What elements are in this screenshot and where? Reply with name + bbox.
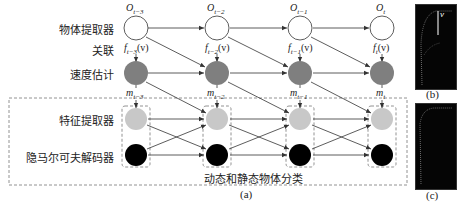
f-label-3: ft−1(v): [288, 42, 313, 56]
label-object-extractor: 物体提取器: [59, 21, 114, 37]
m-label-2: mt−2: [207, 87, 224, 101]
velocity-v-label: v: [440, 9, 444, 19]
label-velocity-estimation: 速度估计: [70, 66, 114, 82]
feature-node-4: [371, 108, 393, 130]
object-node-1: [124, 16, 148, 40]
object-node-3: [288, 16, 312, 40]
object-node-2: [205, 16, 229, 40]
thumbnail-c-trace: [416, 104, 456, 189]
label-hmm-decoder: 隐马尔可夫解码器: [26, 149, 114, 165]
velocity-node-4: [370, 61, 394, 85]
caption-b: (b): [426, 88, 439, 100]
o-label-4: Ot: [376, 2, 385, 16]
hmm-node-3: [289, 144, 311, 166]
o-label-3: Ot−1: [290, 2, 307, 16]
caption-a: (a): [240, 188, 252, 200]
label-feature-extractor: 特征提取器: [59, 112, 114, 128]
velocity-node-1: [124, 61, 148, 85]
velocity-node-3: [288, 61, 312, 85]
thumbnail-c: [415, 103, 457, 190]
thumbnail-b-trace: [416, 5, 456, 89]
object-node-4: [370, 16, 394, 40]
feature-node-3: [289, 108, 311, 130]
caption-c: (c): [426, 189, 438, 201]
group-label: 动态和静态物体分类: [204, 170, 303, 186]
feature-node-1: [125, 108, 147, 130]
m-label-3: mt−1: [290, 87, 307, 101]
o-label-1: Ot−3: [126, 2, 143, 16]
m-label-4: mt: [376, 87, 385, 101]
thumbnail-b: v: [415, 4, 457, 90]
hmm-node-1: [125, 144, 147, 166]
hmm-node-4: [371, 144, 393, 166]
hmm-node-2: [206, 144, 228, 166]
feature-node-2: [206, 108, 228, 130]
m-label-1: mt−3: [126, 87, 143, 101]
object-edges: [136, 28, 382, 155]
f-label-2: ft−2(v): [205, 42, 230, 56]
velocity-node-2: [205, 61, 229, 85]
o-label-2: Ot−2: [207, 2, 224, 16]
f-label-4: ft(v): [373, 42, 389, 56]
label-association: 关联: [92, 42, 114, 58]
f-label-1: ft−3(v): [124, 42, 149, 56]
